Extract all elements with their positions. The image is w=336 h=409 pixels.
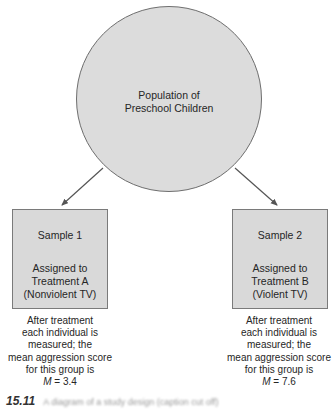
sample-2-desc-line2: Treatment B: [233, 275, 327, 288]
sample-1-result-line4: mean aggression score: [0, 352, 135, 364]
mean-symbol: M: [262, 376, 270, 387]
sample-1-mean: M = 3.4: [0, 376, 135, 388]
sample-1-result-line5: for this group is: [0, 364, 135, 376]
sample-1-desc-line2: Treatment A: [13, 275, 107, 288]
arrow-to-sample-2: [235, 168, 277, 205]
sample-1-result-line1: After treatment: [0, 315, 135, 327]
sample-1-result-line2: each individual is: [0, 327, 135, 339]
sample-1-result: After treatment each individual is measu…: [0, 315, 135, 388]
sample-2-result-line1: After treatment: [204, 315, 336, 327]
figure-number: 15.11: [6, 394, 35, 408]
mean-symbol: M: [43, 376, 51, 387]
figure-caption: 15.11A diagram of a study design (captio…: [6, 394, 219, 409]
sample-2-box: Sample 2 Assigned to Treatment B (Violen…: [232, 209, 328, 309]
sample-2-result: After treatment each individual is measu…: [204, 315, 336, 388]
sample-2-mean: M = 7.6: [204, 376, 336, 388]
sample-2-result-line4: mean aggression score: [204, 352, 336, 364]
figure-caption-text-truncated: A diagram of a study design (caption cut…: [43, 397, 218, 407]
sample-2-mean-value: = 7.6: [271, 376, 296, 387]
sample-2-description: Assigned to Treatment B (Violent TV): [233, 262, 327, 301]
sample-1-desc-line1: Assigned to: [13, 262, 107, 275]
sample-1-result-line3: measured; the: [0, 339, 135, 351]
arrow-to-sample-1: [62, 168, 103, 205]
population-label: Population of Preschool Children: [76, 89, 262, 115]
sample-2-title: Sample 2: [233, 229, 327, 242]
sample-2-result-line5: for this group is: [204, 364, 336, 376]
population-label-line2: Preschool Children: [76, 102, 262, 115]
sample-2-desc-line3: (Violent TV): [233, 288, 327, 301]
sample-1-desc-line3: (Nonviolent TV): [13, 288, 107, 301]
sample-1-title: Sample 1: [13, 229, 107, 242]
sample-1-description: Assigned to Treatment A (Nonviolent TV): [13, 262, 107, 301]
sample-2-result-line2: each individual is: [204, 327, 336, 339]
population-label-line1: Population of: [76, 89, 262, 102]
sample-1-box: Sample 1 Assigned to Treatment A (Nonvio…: [12, 209, 108, 309]
sample-1-mean-value: = 3.4: [52, 376, 77, 387]
sample-2-desc-line1: Assigned to: [233, 262, 327, 275]
sample-2-result-line3: measured; the: [204, 339, 336, 351]
